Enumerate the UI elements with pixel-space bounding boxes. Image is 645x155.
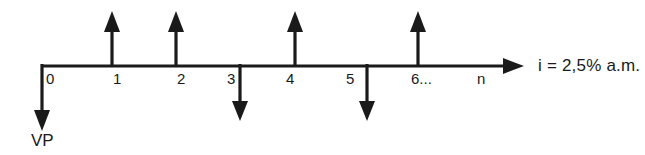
tick-label-period-4: 4	[286, 71, 294, 86]
time-axis-arrowhead	[503, 58, 524, 74]
flow-arrowhead-up-period-2	[168, 11, 184, 32]
flow-arrowhead-down-period-3	[232, 101, 248, 121]
tick-label-period-2: 2	[177, 71, 185, 86]
flow-arrowhead-down-period-0	[34, 110, 50, 131]
tick-label-period-0: 0	[46, 71, 54, 86]
tick-label-period-6: 6...	[411, 71, 432, 86]
tick-label-period-1: 1	[113, 71, 121, 86]
tick-label-period-n: n	[477, 71, 485, 86]
tick-label-period-3: 3	[227, 71, 235, 86]
present-value-label: VP	[31, 132, 54, 149]
cash-flow-timeline-graphic	[0, 0, 645, 155]
cash-flow-diagram: 0 1 2 3 4 5 6... n VP i = 2,5% a.m.	[0, 0, 645, 155]
tick-label-period-5: 5	[346, 71, 354, 86]
flow-arrowhead-up-period-1	[104, 11, 120, 32]
flow-arrowhead-down-period-5	[359, 101, 375, 121]
flow-arrowhead-up-period-4	[287, 11, 303, 32]
interest-rate-annotation: i = 2,5% a.m.	[538, 57, 640, 74]
flow-arrowhead-up-period-6	[410, 11, 426, 32]
